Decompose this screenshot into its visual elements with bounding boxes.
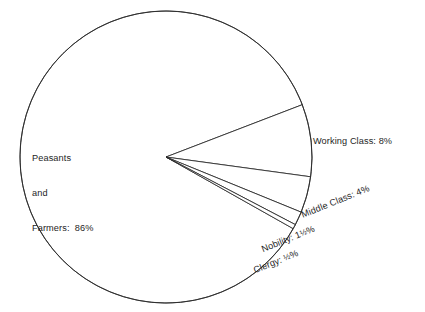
slice-label-peasants-and-farmers: Peasants and Farmers: 86%: [32, 130, 152, 258]
slice-label-peasants-line2: and: [32, 188, 152, 200]
slice-label-peasants-line1: Peasants: [32, 153, 152, 165]
slice-label-working-class: Working Class: 8%: [313, 136, 423, 148]
slice-label-peasants-line3: Farmers: 86%: [32, 223, 152, 235]
chart-page: Chart 9-1Classes in France Peasants and …: [0, 0, 425, 312]
